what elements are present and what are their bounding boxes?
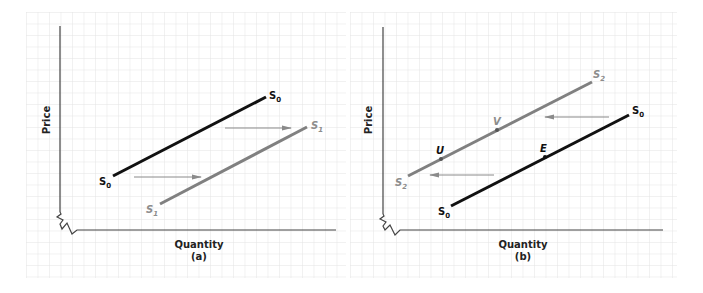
label-point-v: V: [493, 116, 502, 127]
supply-shift-diagram-b: S2 S2 S0 S0 U V E Price Quantity (b): [350, 0, 703, 293]
label-point-e: E: [540, 143, 547, 154]
y-axis-label: Price: [41, 106, 52, 135]
x-axis-label: Quantity: [175, 239, 224, 250]
panel-caption: (b): [515, 251, 531, 262]
point-u: [439, 157, 443, 161]
x-axis-label: Quantity: [499, 239, 548, 250]
label-point-u: U: [436, 145, 444, 156]
point-e: [543, 155, 547, 159]
panel-caption: (a): [191, 251, 207, 262]
y-axis-label: Price: [363, 106, 374, 135]
panel-a: S0 S0 S1 S1 Price Quantity (a): [0, 0, 350, 293]
panel-b: S2 S2 S0 S0 U V E Price Quantity (b): [350, 0, 703, 293]
supply-shift-diagram-a: S0 S0 S1 S1 Price Quantity (a): [0, 0, 350, 293]
point-v: [495, 128, 499, 132]
